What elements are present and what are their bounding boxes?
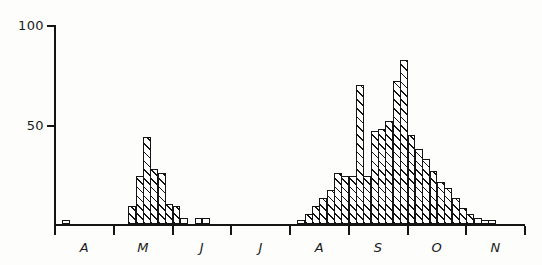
bar — [202, 218, 210, 224]
y-tick-label-100: 100 — [0, 18, 44, 33]
x-axis-tick — [172, 226, 174, 235]
bar — [488, 220, 496, 224]
y-tick-label-50: 50 — [0, 118, 44, 133]
x-tick-label-a-4: A — [290, 240, 349, 255]
y-tick-100 — [47, 25, 55, 27]
y-tick-50 — [47, 125, 55, 127]
x-tick-label-j-2: J — [173, 240, 232, 255]
bar — [180, 218, 188, 224]
plot-area — [55, 26, 525, 224]
x-axis-tick — [465, 226, 467, 235]
x-tick-label-n-7: N — [466, 240, 525, 255]
x-axis-tick — [113, 226, 115, 235]
x-tick-label-m-1: M — [114, 240, 173, 255]
x-tick-label-j-3: J — [231, 240, 290, 255]
chart-figure: 100 50 AMJJASON — [0, 0, 542, 265]
x-axis-tick — [289, 226, 291, 235]
x-axis-tick — [348, 226, 350, 235]
x-axis-tick — [230, 226, 232, 235]
bar — [62, 220, 70, 224]
x-axis-tick — [54, 226, 56, 235]
x-axis-tick — [524, 226, 526, 235]
x-tick-label-o-6: O — [408, 240, 467, 255]
x-axis-tick — [407, 226, 409, 235]
x-tick-label-s-5: S — [349, 240, 408, 255]
x-tick-label-a-0: A — [55, 240, 114, 255]
